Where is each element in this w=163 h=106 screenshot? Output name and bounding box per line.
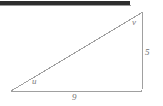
right-triangle-graphic xyxy=(0,0,163,106)
figure-root: u v 5 9 xyxy=(0,0,163,106)
angle-label-v: v xyxy=(132,18,136,27)
side-label-vertical: 5 xyxy=(145,48,150,57)
side-label-base: 9 xyxy=(72,93,77,102)
triangle-vertical-leg xyxy=(142,12,143,91)
triangle-hypotenuse xyxy=(11,12,143,91)
angle-label-u: u xyxy=(32,77,37,86)
